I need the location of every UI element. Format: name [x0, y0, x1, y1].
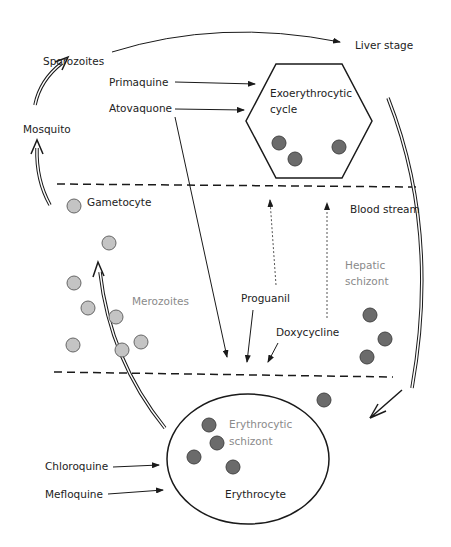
- label-hepatic: Hepatic: [345, 260, 385, 271]
- hepatic-schizont-cell: [378, 332, 392, 346]
- merozoite-cell: [66, 338, 80, 352]
- label-liver-stage: Liver stage: [355, 40, 413, 51]
- free-cell: [317, 393, 331, 407]
- label-gametocyte: Gametocyte: [87, 197, 151, 208]
- label-mefloquine: Mefloquine: [45, 489, 103, 500]
- hepatic-cell: [288, 152, 302, 166]
- arrow-atovaquone-exo: [175, 109, 244, 110]
- double-arrow-to-mosquito: [31, 140, 50, 205]
- double-arrow-liver-to-blood: [370, 98, 422, 418]
- merozoite-cell: [109, 310, 123, 324]
- label-sporozoites: Sporozoites: [43, 56, 104, 67]
- label-primaquine: Primaquine: [109, 77, 168, 88]
- arrow-proguanil: [247, 310, 253, 362]
- label-blood-stream: Blood stream: [350, 204, 420, 215]
- merozoite-cell: [115, 343, 129, 357]
- label-cycle: cycle: [270, 104, 297, 115]
- label-erythrocytic: Erythrocytic: [229, 419, 292, 430]
- arrow-doxycycline: [268, 343, 278, 362]
- label-erythrocytic-schizont: schizont: [229, 436, 273, 447]
- label-doxycycline: Doxycycline: [276, 327, 339, 338]
- gametocyte-cell: [67, 199, 81, 213]
- boundary-top: [57, 184, 417, 187]
- merozoite-cell: [134, 335, 148, 349]
- arrow-atovaquone-blood: [175, 117, 227, 357]
- label-proguanil: Proguanil: [241, 293, 290, 304]
- hepatic-schizont-cell: [363, 308, 377, 322]
- merozoite-cell: [81, 301, 95, 315]
- arrow-mefloquine: [108, 490, 163, 494]
- label-merozoites: Merozoites: [132, 296, 189, 307]
- erythrocytic-schizont-cell: [210, 436, 224, 450]
- erythrocytic-schizont-cell: [202, 418, 216, 432]
- exoerythrocytic-hexagon: [246, 64, 372, 178]
- hepatic-cell: [332, 140, 346, 154]
- arrow-sporozoites-to-liver: [112, 32, 340, 52]
- label-schizont: schizont: [345, 276, 389, 287]
- erythrocytic-schizont-cell: [226, 460, 240, 474]
- merozoite-cell: [67, 276, 81, 290]
- merozoite-cell: [102, 236, 116, 250]
- hepatic-cell: [272, 136, 286, 150]
- arrow-primaquine: [175, 82, 255, 84]
- erythrocytic-schizont-cell: [187, 450, 201, 464]
- label-erythrocyte: Erythrocyte: [225, 489, 286, 500]
- hepatic-schizont-cell: [360, 350, 374, 364]
- arrow-chloroquine: [113, 465, 159, 467]
- label-exoerythrocytic: Exoerythrocytic: [270, 88, 352, 99]
- boundary-bottom: [54, 372, 393, 377]
- label-chloroquine: Chloroquine: [45, 461, 108, 472]
- double-arrow-to-merozoites: [93, 262, 165, 428]
- label-atovaquone: Atovaquone: [109, 103, 172, 114]
- dotted-arrow-proguanil: [270, 200, 276, 285]
- label-mosquito: Mosquito: [23, 124, 71, 135]
